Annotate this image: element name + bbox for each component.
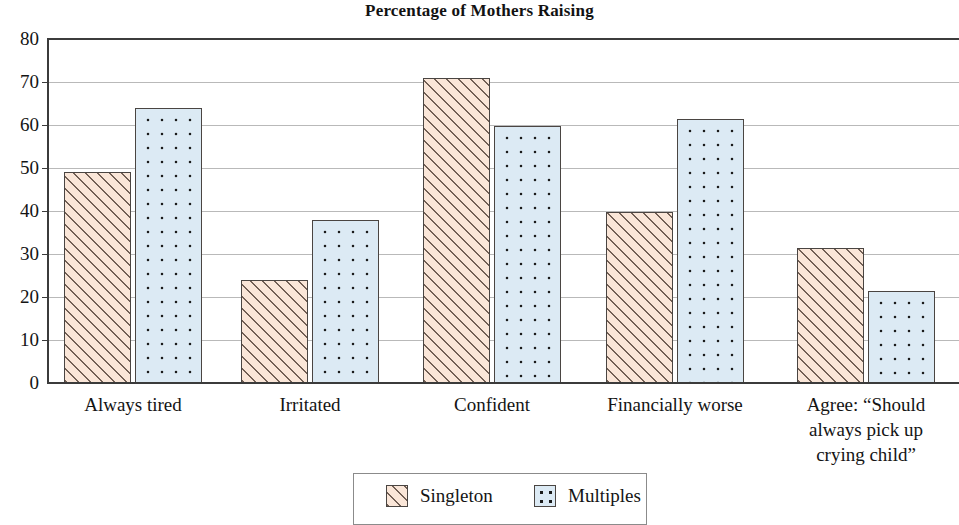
y-axis-tick-label: 30: [0, 244, 39, 263]
legend-swatch-multiples-icon: [534, 485, 556, 507]
legend-label: Multiples: [568, 485, 641, 507]
legend-swatch-singleton-icon: [386, 485, 408, 507]
bar-singleton-0: [64, 172, 131, 383]
chart-title: Percentage of Mothers Raising: [0, 0, 959, 22]
legend-label: Singleton: [420, 485, 493, 507]
bar-singleton-2: [423, 78, 490, 383]
plot-area: [48, 39, 959, 383]
bar-multiples-2: [494, 126, 561, 383]
y-axis-tick-label: 60: [0, 115, 39, 134]
y-axis-tick-label: 10: [0, 330, 39, 349]
y-axis-tick-label: 40: [0, 201, 39, 220]
gridline: [48, 82, 959, 83]
y-axis-line: [47, 38, 49, 384]
x-axis-category-label-line: always pick up: [746, 417, 959, 442]
bar-singleton-1: [241, 280, 308, 383]
y-axis-tick-label: 20: [0, 287, 39, 306]
y-axis-tick-label: 80: [0, 29, 39, 48]
bar-multiples-4: [868, 291, 935, 383]
bar-multiples-0: [135, 108, 202, 383]
y-axis-tick-label: 70: [0, 72, 39, 91]
y-axis-tick-label: 0: [0, 373, 39, 392]
gridline: [48, 38, 959, 40]
x-axis-category-label-line: crying child”: [746, 442, 959, 467]
bar-multiples-1: [312, 220, 379, 383]
legend-item-singleton: Singleton: [386, 485, 493, 507]
bar-singleton-4: [797, 248, 864, 383]
bar-singleton-3: [606, 212, 673, 383]
bar-multiples-3: [677, 119, 744, 383]
x-axis-category-label-line: Agree: “Should: [746, 392, 959, 417]
y-axis-tick-label: 50: [0, 158, 39, 177]
legend-item-multiples: Multiples: [534, 485, 641, 507]
x-axis-line: [47, 382, 959, 384]
chart-legend: SingletonMultiples: [353, 473, 647, 525]
x-axis-category-label: Agree: “Shouldalways pick upcrying child…: [746, 392, 959, 467]
